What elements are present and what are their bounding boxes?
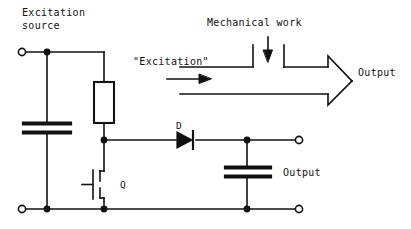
output-terminal-top bbox=[295, 136, 302, 143]
excitation-source-label-line2: source bbox=[22, 19, 60, 32]
output-arrow-label: Output bbox=[358, 66, 396, 79]
junction-source-top bbox=[44, 49, 51, 56]
excitation-arrow-head bbox=[199, 75, 211, 84]
mechanical-work-arrow-head bbox=[264, 50, 273, 62]
diode-reference-label: D bbox=[176, 119, 182, 132]
excitation-quoted-label: "Excitation" bbox=[133, 55, 209, 68]
junction-output-top bbox=[244, 137, 251, 144]
mechanical-work-label: Mechanical work bbox=[207, 16, 302, 29]
excitation-source-label-line1: Excitation bbox=[22, 6, 85, 19]
inductor-body bbox=[94, 82, 114, 123]
input-terminal-top bbox=[18, 48, 25, 55]
big-arrow-head-lower bbox=[328, 81, 352, 105]
junction-source-bottom bbox=[44, 206, 51, 213]
junction-drain bbox=[101, 137, 108, 144]
transistor-reference-label: Q bbox=[120, 178, 126, 191]
junction-output-bottom bbox=[244, 206, 251, 213]
diode-triangle bbox=[177, 132, 192, 148]
input-terminal-bottom bbox=[18, 205, 25, 212]
schematic-drawing bbox=[0, 0, 411, 229]
junction-transistor-source bbox=[101, 206, 108, 213]
output-terminal-bottom bbox=[295, 205, 302, 212]
circuit-diagram-canvas: Excitation source "Excitation" Mechanica… bbox=[0, 0, 411, 229]
big-arrow-head-upper bbox=[328, 56, 352, 81]
output-capacitor-label: Output bbox=[283, 166, 321, 179]
